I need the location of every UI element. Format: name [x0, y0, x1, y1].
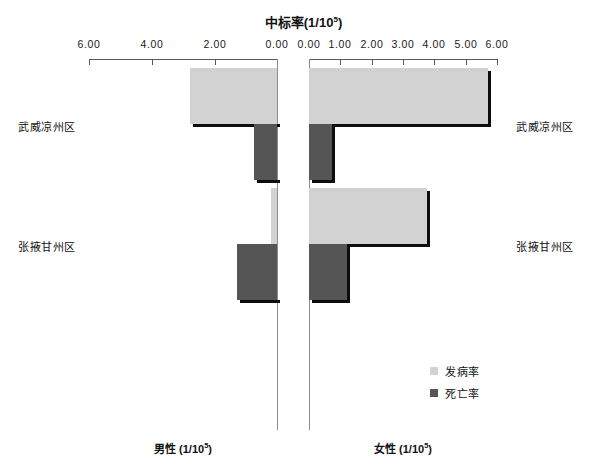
female-axis-tick-5 [466, 60, 467, 65]
bar-female-mortality-0 [309, 124, 332, 180]
male-axis-caption-tail: ) [208, 443, 212, 455]
male-axis-tick-4 [152, 60, 153, 65]
bar-male-mortality-1 [237, 244, 277, 300]
category-label-left-1: 张掖甘州区 [18, 238, 76, 254]
bar-shadow-male-mortality-1 [240, 300, 280, 303]
female-axis-caption: 女性 (1/105) [374, 440, 432, 456]
category-label-right-1: 张掖甘州区 [516, 238, 574, 254]
chart-legend: 发病率 死亡率 [430, 360, 480, 404]
male-axis-endcap-left [89, 59, 90, 65]
female-axis-tick-3 [403, 60, 404, 65]
legend-label-mortality: 死亡率 [445, 385, 480, 401]
bar-male-incidence-1 [271, 188, 277, 244]
legend-swatch-incidence-icon [430, 367, 438, 375]
chart-title: 中标率(1/105) [0, 12, 607, 31]
female-tick-label-3: 3.00 [392, 38, 415, 50]
male-tick-label-2: 2.00 [204, 38, 227, 50]
female-axis-tick-4 [434, 60, 435, 65]
bar-male-incidence-0 [190, 68, 277, 124]
female-axis-endcap-right [497, 59, 498, 65]
chart-title-tail: ) [338, 15, 342, 30]
legend-label-incidence: 发病率 [445, 363, 480, 379]
bar-shadow-side-female-mortality-1 [347, 247, 350, 303]
male-tick-label-6: 6.00 [78, 38, 101, 50]
male-axis-caption: 男性 (1/105) [154, 440, 212, 456]
female-tick-label-6: 6.00 [486, 38, 509, 50]
female-tick-label-5: 5.00 [455, 38, 478, 50]
bar-shadow-female-mortality-0 [312, 180, 335, 183]
female-tick-label-0: 0.00 [298, 38, 321, 50]
chart-title-main: 中标率(1/10 [265, 15, 334, 30]
male-axis-caption-main: 男性 (1/10 [154, 443, 204, 455]
male-tick-label-4: 4.00 [141, 38, 164, 50]
female-tick-label-1: 1.00 [329, 38, 352, 50]
female-axis-tick-2 [372, 60, 373, 65]
bar-shadow-side-female-incidence-0 [488, 71, 491, 127]
female-tick-label-2: 2.00 [361, 38, 384, 50]
bar-shadow-female-mortality-1 [312, 300, 350, 303]
female-tick-label-4: 4.00 [423, 38, 446, 50]
legend-item-incidence: 发病率 [430, 360, 480, 382]
legend-item-mortality: 死亡率 [430, 382, 480, 404]
bar-female-incidence-1 [309, 188, 427, 244]
bar-shadow-female-incidence-0 [312, 124, 491, 127]
bar-shadow-side-female-incidence-1 [427, 191, 430, 247]
bar-shadow-side-female-mortality-0 [332, 127, 335, 183]
category-label-left-0: 武威凉州区 [18, 118, 76, 134]
female-axis-tick-1 [340, 60, 341, 65]
female-axis-caption-tail: ) [428, 443, 432, 455]
male-axis-tick-2 [215, 60, 216, 65]
category-label-right-0: 武威凉州区 [516, 118, 574, 134]
legend-swatch-mortality-icon [430, 389, 438, 397]
bar-female-mortality-1 [309, 244, 347, 300]
bar-female-incidence-0 [309, 68, 488, 124]
chart-canvas: 中标率(1/105) 6.00 4.00 2.00 0.00 0.00 1.00… [0, 0, 607, 476]
female-axis-caption-main: 女性 (1/10 [374, 443, 424, 455]
male-axis-line [89, 59, 278, 60]
bar-shadow-male-mortality-0 [257, 180, 280, 183]
male-tick-label-0: 0.00 [266, 38, 289, 50]
male-baseline [277, 59, 278, 430]
bar-male-mortality-0 [254, 124, 277, 180]
